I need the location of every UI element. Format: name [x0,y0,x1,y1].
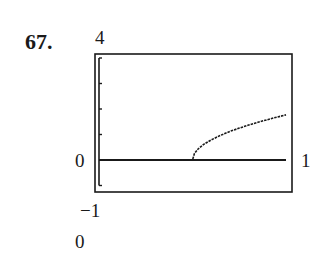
plot-frame [95,54,292,192]
function-curve [99,115,286,160]
graph-window [0,0,320,260]
